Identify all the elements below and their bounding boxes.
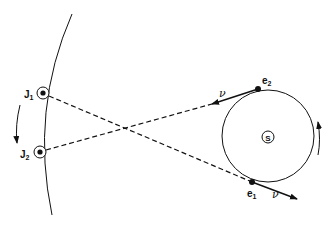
sun-label: S: [265, 134, 271, 143]
earth-motion-arrow-icon: [318, 122, 320, 155]
e2-dot: [255, 86, 261, 92]
sightline-e2-j2: [46, 104, 212, 150]
sightline-e1-j1: [49, 96, 252, 182]
jupiter-orbit-arc: [44, 14, 72, 215]
jupiter-motion-arrow-icon: [16, 105, 20, 143]
e1-dot: [249, 179, 255, 185]
diagram-canvas: S J1 J2 e2 e1 ν ν: [0, 0, 333, 227]
velocity-label-e2: ν: [219, 87, 226, 100]
j1-label: J1: [24, 89, 34, 101]
j2-label: J2: [20, 149, 30, 161]
e1-label: e1: [247, 188, 257, 200]
velocity-label-e1: ν: [272, 188, 279, 201]
j2-marker: [34, 146, 46, 158]
j1-marker: [37, 87, 49, 99]
e2-label: e2: [262, 75, 272, 87]
